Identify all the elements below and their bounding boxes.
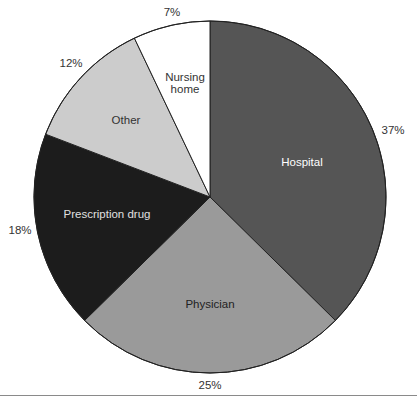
slice-label: Physician (185, 298, 234, 310)
slice-label: Hospital (281, 156, 323, 168)
pie-chart: HospitalPhysicianPrescription drugOtherN… (0, 0, 417, 402)
percent-label: 37% (381, 124, 404, 136)
slice-label: Nursinghome (165, 71, 205, 95)
pie-slices (34, 21, 386, 373)
bottom-rule (0, 395, 417, 396)
percent-label: 12% (59, 57, 82, 69)
percent-label: 18% (8, 224, 31, 236)
slice-label: Prescription drug (64, 208, 151, 220)
slice-label: Other (112, 114, 141, 126)
percent-label: 7% (164, 6, 181, 18)
percent-label: 25% (198, 379, 221, 391)
